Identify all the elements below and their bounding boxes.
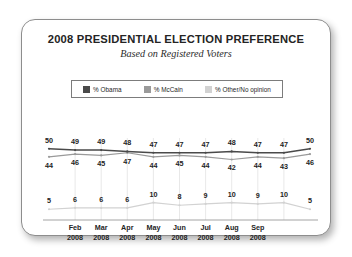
data-label-mccain: 47 <box>123 157 131 166</box>
data-label-obama: 48 <box>228 138 236 147</box>
x-axis-tick: Apr2008 <box>119 223 135 242</box>
data-label-mccain: 45 <box>176 159 184 168</box>
x-axis-tick: Feb2008 <box>67 223 83 242</box>
data-label-other: 9 <box>256 191 260 200</box>
data-label-other: 6 <box>99 195 103 204</box>
x-axis-tick-month: Jun <box>172 223 188 233</box>
data-label-other: 10 <box>228 190 236 199</box>
x-axis-tick-month: Apr <box>119 223 135 233</box>
x-axis-tick-year: 2008 <box>67 233 83 243</box>
data-label-mccain: 43 <box>280 162 288 171</box>
data-label-other: 6 <box>73 195 77 204</box>
chart-title: 2008 PRESIDENTIAL ELECTION PREFERENCE <box>22 33 330 45</box>
data-label-obama: 49 <box>97 137 105 146</box>
x-axis-tick-year: 2008 <box>145 233 161 243</box>
data-label-other: 8 <box>178 192 182 201</box>
data-label-obama: 47 <box>254 140 262 149</box>
x-axis-tick-year: 2008 <box>198 233 214 243</box>
x-axis-tick: Sep2008 <box>250 223 266 242</box>
legend-item-obama: % Obama <box>83 86 121 93</box>
x-axis-tick: Mar2008 <box>93 223 109 242</box>
data-label-obama: 47 <box>202 140 210 149</box>
x-axis-tick-month: Mar <box>93 223 109 233</box>
x-axis-tick: Jul2008 <box>198 223 214 242</box>
data-label-obama: 49 <box>71 137 79 146</box>
x-axis-tick-year: 2008 <box>250 233 266 243</box>
chart-legend: % Obama % McCain % Other/No opinion <box>71 80 283 98</box>
data-label-obama: 50 <box>306 136 314 145</box>
legend-swatch-mccain <box>144 86 151 93</box>
legend-item-other: % Other/No opinion <box>205 86 271 93</box>
chart-subtitle: Based on Registered Voters <box>22 48 330 59</box>
data-label-mccain: 45 <box>97 159 105 168</box>
data-label-other: 10 <box>149 190 157 199</box>
data-label-obama: 50 <box>45 136 53 145</box>
data-label-mccain: 42 <box>228 163 236 172</box>
x-axis-tick-month: May <box>145 223 161 233</box>
legend-label-obama: % Obama <box>93 86 121 93</box>
data-label-mccain: 44 <box>149 161 157 170</box>
x-axis-tick-year: 2008 <box>172 233 188 243</box>
data-label-mccain: 44 <box>45 161 53 170</box>
data-label-mccain: 46 <box>71 158 79 167</box>
x-axis-tick-month: Aug <box>224 223 240 233</box>
data-label-obama: 47 <box>149 140 157 149</box>
x-axis-tick: May2008 <box>145 223 161 242</box>
data-label-other: 6 <box>125 195 129 204</box>
x-axis-tick: Jun2008 <box>172 223 188 242</box>
data-label-other: 5 <box>47 196 51 205</box>
chart-card: 2008 PRESIDENTIAL ELECTION PREFERENCE Ba… <box>21 19 331 236</box>
x-axis-tick-month: Feb <box>67 223 83 233</box>
data-label-obama: 47 <box>280 140 288 149</box>
x-axis-tick-month: Sep <box>250 223 266 233</box>
data-label-mccain: 44 <box>254 161 262 170</box>
data-label-other: 9 <box>204 191 208 200</box>
x-axis-tick-year: 2008 <box>224 233 240 243</box>
data-label-other: 5 <box>308 196 312 205</box>
legend-label-other: % Other/No opinion <box>215 86 271 93</box>
legend-item-mccain: % McCain <box>144 86 183 93</box>
legend-swatch-obama <box>83 86 90 93</box>
x-axis-tick: Aug2008 <box>224 223 240 242</box>
data-label-mccain: 46 <box>306 158 314 167</box>
x-axis-tick-year: 2008 <box>119 233 135 243</box>
data-label-obama: 48 <box>123 138 131 147</box>
legend-label-mccain: % McCain <box>154 86 183 93</box>
data-label-mccain: 44 <box>202 161 210 170</box>
x-axis-tick-month: Jul <box>198 223 214 233</box>
x-axis-tick-year: 2008 <box>93 233 109 243</box>
legend-swatch-other <box>205 86 212 93</box>
data-label-other: 10 <box>280 190 288 199</box>
data-label-obama: 47 <box>176 140 184 149</box>
